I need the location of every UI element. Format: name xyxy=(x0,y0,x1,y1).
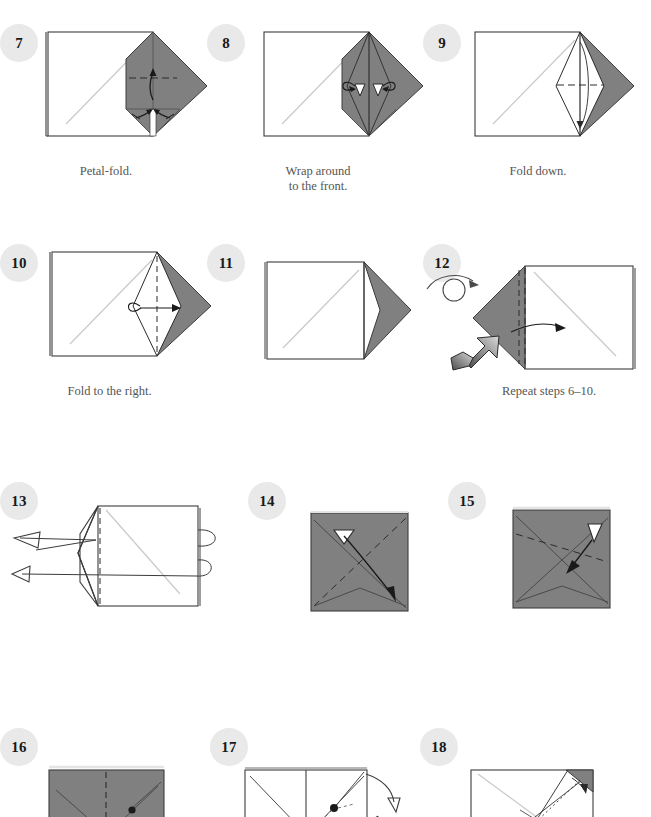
step-8: 8 Wrap around to the front. xyxy=(207,24,422,174)
step-10-figure xyxy=(48,248,223,368)
step-18: 18 xyxy=(420,728,651,817)
step-8-figure xyxy=(260,28,430,148)
step-7-caption: Petal-fold. xyxy=(26,164,186,179)
step-9-figure xyxy=(471,28,651,148)
step-9-caption: Fold down. xyxy=(453,164,623,179)
step-number-badge: 9 xyxy=(423,24,461,62)
step-number-badge: 16 xyxy=(0,728,38,766)
step-12-caption: Repeat steps 6–10. xyxy=(459,384,639,399)
step-number-badge: 14 xyxy=(248,482,286,520)
step-number-badge: 11 xyxy=(207,244,245,282)
step-7: 7 xyxy=(0,24,215,174)
step-17: 17 xyxy=(210,728,425,817)
step-12: 12 xyxy=(423,244,651,404)
step-9: 9 Fold down. xyxy=(423,24,651,174)
step-7-figure xyxy=(44,28,214,148)
step-10-caption: Fold to the right. xyxy=(22,384,197,399)
step-11: 11 xyxy=(207,244,422,394)
step-number-badge: 18 xyxy=(420,728,458,766)
step-number-badge: 8 xyxy=(207,24,245,62)
origami-instruction-page: 7 xyxy=(0,0,651,817)
step-12-figure xyxy=(407,246,651,376)
step-10: 10 Fold to the right. xyxy=(0,244,215,394)
step-16-figure xyxy=(46,764,176,817)
step-18-figure xyxy=(468,764,648,817)
step-14: 14 Fold and unfold the top layer. Repeat… xyxy=(248,482,448,672)
step-number-badge: 7 xyxy=(0,24,38,62)
step-number-badge: 17 xyxy=(210,728,248,766)
step-8-caption: Wrap around to the front. xyxy=(233,164,403,194)
step-17-figure xyxy=(242,764,422,817)
step-15: 15 Fold and unfold by the diagonal. xyxy=(448,482,651,672)
step-number-badge: 15 xyxy=(448,482,486,520)
step-13: 13 Open th xyxy=(0,482,228,672)
step-15-figure xyxy=(510,504,620,619)
step-13-figure xyxy=(0,498,228,623)
step-16: 16 xyxy=(0,728,215,817)
step-number-badge: 10 xyxy=(0,244,38,282)
step-14-figure xyxy=(308,510,418,620)
